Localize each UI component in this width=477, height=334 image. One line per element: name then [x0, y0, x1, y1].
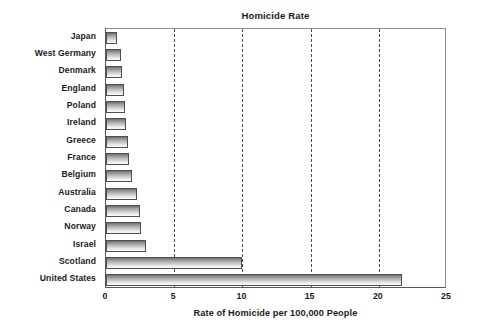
category-label-denmark: Denmark [0, 65, 96, 75]
bar-row [106, 32, 445, 44]
bar-row [106, 240, 445, 252]
category-label-england: England [0, 83, 96, 93]
bar-ireland [106, 118, 126, 130]
bar-denmark [106, 66, 122, 78]
bar-row [106, 101, 445, 113]
chart-title: Homicide Rate [105, 10, 446, 21]
bar-row [106, 222, 445, 234]
category-label-norway: Norway [0, 221, 96, 231]
x-tick-label-0: 0 [103, 291, 108, 301]
bar-poland [106, 101, 125, 113]
x-tick-label-25: 25 [441, 291, 451, 301]
category-label-greece: Greece [0, 135, 96, 145]
bar-japan [106, 32, 117, 44]
bar-united-states [106, 274, 402, 286]
x-tick-label-20: 20 [373, 291, 383, 301]
category-label-ireland: Ireland [0, 117, 96, 127]
bar-greece [106, 136, 128, 148]
bar-row [106, 118, 445, 130]
bar-australia [106, 188, 137, 200]
bar-row [106, 188, 445, 200]
category-label-australia: Australia [0, 187, 96, 197]
bar-scotland [106, 257, 242, 269]
bar-canada [106, 205, 140, 217]
bar-row [106, 257, 445, 269]
bar-west-germany [106, 49, 121, 61]
x-axis-title: Rate of Homicide per 100,000 People [105, 308, 446, 318]
category-label-united-states: United States [0, 273, 96, 283]
category-label-canada: Canada [0, 204, 96, 214]
bar-england [106, 84, 124, 96]
homicide-rate-bar-chart: Homicide Rate JapanWest GermanyDenmarkEn… [0, 0, 477, 334]
bar-row [106, 49, 445, 61]
bar-belgium [106, 170, 132, 182]
x-tick-label-10: 10 [236, 291, 246, 301]
bar-row [106, 274, 445, 286]
bar-row [106, 136, 445, 148]
bar-israel [106, 240, 146, 252]
category-label-israel: Israel [0, 239, 96, 249]
bar-norway [106, 222, 141, 234]
x-tick-label-5: 5 [171, 291, 176, 301]
bar-row [106, 170, 445, 182]
bars-layer [106, 29, 445, 287]
bar-row [106, 84, 445, 96]
category-label-belgium: Belgium [0, 169, 96, 179]
bar-row [106, 205, 445, 217]
category-label-france: France [0, 152, 96, 162]
category-label-japan: Japan [0, 31, 96, 41]
bar-france [106, 153, 129, 165]
x-tick-label-15: 15 [305, 291, 315, 301]
y-axis-category-labels: JapanWest GermanyDenmarkEnglandPolandIre… [0, 28, 100, 288]
x-axis-tick-labels: 0510152025 [0, 291, 477, 305]
category-label-poland: Poland [0, 100, 96, 110]
category-label-scotland: Scotland [0, 256, 96, 266]
bar-row [106, 66, 445, 78]
category-label-west-germany: West Germany [0, 48, 96, 58]
bar-row [106, 153, 445, 165]
plot-area [105, 28, 446, 288]
